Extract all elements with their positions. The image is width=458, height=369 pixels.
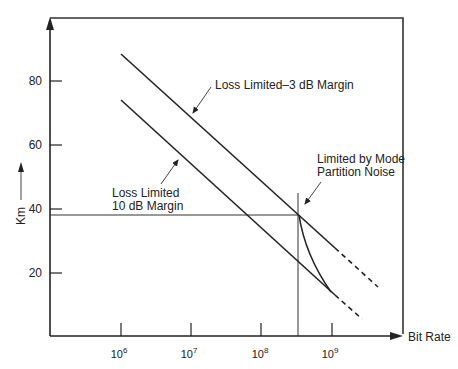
x-axis-label: Bit Rate [408,330,451,344]
annotation-3db-arrow [193,87,211,113]
x-tick-labels: 106 107 108 109 [111,346,339,360]
series-mpn-curve [299,215,331,292]
svg-text:40: 40 [29,202,43,216]
svg-text:109: 109 [322,346,339,360]
series-10db-dashed [335,295,362,319]
annotation-mpn-line1: Limited by Mode [317,152,405,166]
svg-text:Km: Km [14,207,28,225]
chart: 80 60 40 20 Km 106 107 108 109 Bit Rate … [0,0,458,369]
annotation-10db-arrow [161,160,178,184]
annotation-10db-line1: Loss Limited [112,186,179,200]
y-axis-label: Km [14,162,28,225]
svg-text:60: 60 [29,138,43,152]
svg-text:106: 106 [111,346,128,360]
series-3db-dashed [335,248,378,287]
svg-text:108: 108 [252,346,269,360]
annotation-mpn-arrow [305,182,321,204]
annotation-mpn-line2: Partition Noise [317,165,395,179]
x-axis-arrow-icon [390,332,403,340]
y-ticks [50,81,62,273]
y-tick-labels: 80 60 40 20 [29,74,43,280]
annotation-3db: Loss Limited–3 dB Margin [215,78,354,92]
svg-text:80: 80 [29,74,43,88]
annotation-10db-line2: 10 dB Margin [112,199,183,213]
svg-text:20: 20 [29,266,43,280]
y-axis-arrow-icon [46,17,54,30]
x-ticks [121,323,332,336]
svg-text:107: 107 [181,346,198,360]
